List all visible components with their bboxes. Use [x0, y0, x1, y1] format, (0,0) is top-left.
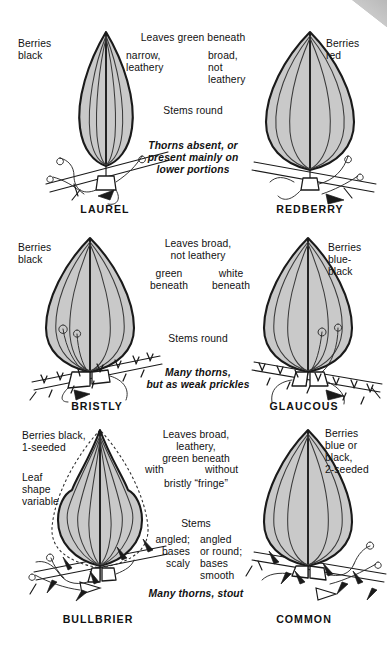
species-name-bristly: BRISTLY [71, 400, 123, 412]
row3-right-stem-trait: angled or round; bases smooth [200, 534, 242, 582]
row1-heading: Leaves green beneath [141, 32, 245, 44]
identification-key-plate: Berries black Leaves green beneath narro… [0, 0, 387, 657]
row3-thorn-note: Many thorns, stout [149, 588, 244, 600]
species-name-laurel: LAUREL [80, 203, 129, 215]
figure-glaucous [248, 230, 383, 405]
row2-stems: Stems round [168, 333, 227, 345]
row1-thorn-note: Thorns absent, or present mainly on lowe… [148, 140, 239, 176]
berries-label-redberry: Berries red [326, 38, 359, 62]
row3-left-trait: with [145, 464, 164, 476]
row2-thorn-note: Many thorns, but as weak prickles [146, 367, 249, 391]
species-name-redberry: REDBERRY [276, 203, 343, 215]
berries-label-laurel: Berries black [18, 38, 51, 62]
berries-label-bristly: Berries black [18, 242, 51, 266]
berries-label-glaucous: Berries blue- black [328, 242, 361, 278]
row2-heading: Leaves broad, not leathery [165, 238, 232, 262]
species-name-common: COMMON [276, 613, 332, 625]
row3-right-trait: without [205, 464, 238, 476]
row1-stems: Stems round [163, 105, 222, 117]
leaf-shape-variable-note: Leaf shape variable [22, 472, 59, 508]
row2-right-trait: white beneath [212, 268, 250, 292]
row2-left-trait: green beneath [150, 268, 188, 292]
row3-fringe-note: bristly “fringe” [164, 478, 228, 490]
row3-heading: Leaves broad, leathery, green beneath [162, 429, 230, 465]
species-name-glaucous: GLAUCOUS [269, 400, 338, 412]
berries-label-common: Berries blue or black, 2-seeded [325, 428, 369, 476]
species-name-bullbrier: BULLBRIER [63, 613, 134, 625]
berries-label-bullbrier: Berries black, 1-seeded [22, 430, 86, 454]
row1-left-trait: narrow, leathery [126, 50, 163, 74]
row1-right-trait: broad, not leathery [208, 50, 245, 86]
row3-left-stem-trait: angled; bases scaly [156, 534, 190, 570]
row3-stems: Stems [181, 518, 211, 530]
